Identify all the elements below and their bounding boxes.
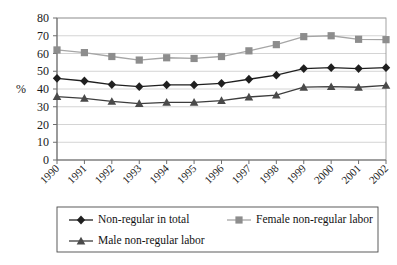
marker-diamond: [245, 75, 253, 84]
x-tick-label: 1992: [92, 162, 116, 186]
y-tick-label: 50: [37, 64, 49, 78]
y-tick-label: 10: [37, 135, 49, 149]
x-tick-label: 2002: [366, 162, 390, 186]
x-tick-label: 1996: [202, 162, 226, 186]
y-tick-label: 60: [37, 47, 49, 61]
y-tick-label: 80: [37, 11, 49, 25]
y-tick-label: 70: [37, 29, 49, 43]
y-tick-label: 30: [37, 100, 49, 114]
marker-square: [382, 36, 389, 43]
marker-diamond: [327, 63, 335, 72]
x-tick-label: 1998: [257, 162, 281, 186]
xtick-labels: 1990199119921993199419951996199719981999…: [37, 162, 390, 186]
marker-diamond: [135, 82, 143, 91]
marker-square: [81, 49, 88, 56]
marker-square: [273, 41, 280, 48]
marker-square: [355, 36, 362, 43]
marker-square: [163, 54, 170, 61]
y-axis-title-label: %: [16, 82, 26, 96]
x-tick-label: 1991: [65, 162, 89, 186]
chart-canvas: 01020304050607080 % 19901991199219931994…: [0, 0, 397, 265]
marker-square: [245, 47, 252, 54]
marker-diamond: [108, 80, 116, 89]
marker-square: [136, 56, 143, 63]
legend-label: Male non-regular labor: [98, 234, 205, 247]
marker-diamond: [162, 81, 170, 90]
x-tick-label: 1993: [120, 162, 144, 186]
marker-square: [190, 55, 197, 62]
legend: Non-regular in totalFemale non-regular l…: [57, 207, 378, 252]
y-axis-title: %: [16, 82, 26, 96]
marker-square: [53, 46, 60, 53]
legend-label: Non-regular in total: [98, 213, 189, 226]
marker-square: [218, 53, 225, 60]
marker-diamond: [354, 64, 362, 73]
marker-square: [235, 216, 242, 223]
line-chart: 01020304050607080 % 19901991199219931994…: [0, 0, 397, 265]
x-tick-label: 1990: [37, 162, 61, 186]
y-tick-label: 0: [43, 153, 49, 167]
x-tick-label: 1997: [229, 162, 253, 186]
marker-square: [328, 32, 335, 39]
y-tick-label: 20: [37, 118, 49, 132]
ytick-labels: 01020304050607080: [37, 11, 49, 167]
series-2: [53, 32, 389, 64]
marker-diamond: [382, 63, 390, 72]
series-layer: [53, 32, 391, 107]
x-tick-label: 1995: [174, 162, 198, 186]
y-tick-label: 40: [37, 82, 49, 96]
x-tick-label: 1994: [147, 162, 171, 186]
marker-diamond: [272, 71, 280, 80]
legend-label: Female non-regular labor: [256, 213, 373, 226]
marker-diamond: [80, 77, 88, 86]
x-tick-label: 1999: [284, 162, 308, 186]
marker-diamond: [300, 64, 308, 73]
marker-diamond: [53, 74, 61, 83]
marker-square: [300, 33, 307, 40]
x-tick-label: 2000: [312, 162, 336, 186]
marker-diamond: [190, 81, 198, 90]
x-tick-label: 2001: [339, 162, 363, 186]
marker-diamond: [217, 79, 225, 88]
marker-square: [108, 53, 115, 60]
